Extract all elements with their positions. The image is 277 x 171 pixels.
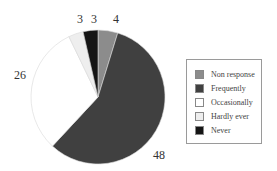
legend-label: Never xyxy=(211,126,231,135)
legend-swatch xyxy=(195,98,204,107)
label-never: 3 xyxy=(91,12,97,27)
legend-item-frequently: Frequently xyxy=(195,82,246,94)
label-hardly-ever: 3 xyxy=(77,12,83,27)
legend-label: Frequently xyxy=(211,84,246,93)
pie-slices xyxy=(31,30,165,164)
legend-item-never: Never xyxy=(195,124,231,136)
legend-swatch xyxy=(195,70,204,79)
legend-label: Non response xyxy=(211,70,255,79)
legend-label: Occasionally xyxy=(211,98,253,107)
legend: Non response Frequently Occasionally Har… xyxy=(186,59,262,144)
legend-swatch xyxy=(195,84,204,93)
legend-item-non-response: Non response xyxy=(195,68,255,80)
legend-item-occasionally: Occasionally xyxy=(195,96,253,108)
label-occasionally: 26 xyxy=(14,68,26,83)
legend-label: Hardly ever xyxy=(211,112,249,121)
legend-item-hardly-ever: Hardly ever xyxy=(195,110,249,122)
legend-swatch xyxy=(195,126,204,135)
label-frequently: 48 xyxy=(153,148,165,163)
legend-swatch xyxy=(195,112,204,121)
label-non-response: 4 xyxy=(113,12,119,27)
